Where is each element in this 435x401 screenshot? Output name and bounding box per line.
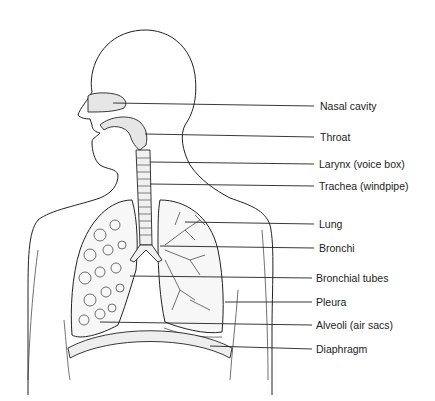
label-alveoli: Alveoli (air sacs): [316, 319, 393, 331]
trachea-shape: [136, 150, 152, 245]
label-throat: Throat: [320, 131, 350, 143]
right-lung: [158, 200, 223, 333]
label-bronchial-tubes: Bronchial tubes: [316, 272, 388, 284]
label-nasal-cavity: Nasal cavity: [320, 100, 377, 112]
right-arm-line: [262, 230, 268, 380]
label-lung: Lung: [319, 218, 342, 230]
anatomy-illustration: [0, 0, 435, 401]
label-trachea: Trachea (windpipe): [319, 180, 409, 192]
respiratory-system-diagram: Nasal cavity Throat Larynx (voice box) T…: [0, 0, 435, 401]
right-body-side: [230, 290, 238, 380]
label-larynx: Larynx (voice box): [319, 158, 405, 170]
throat-passage: [100, 117, 147, 150]
label-bronchi: Bronchi: [319, 242, 355, 254]
left-arm-line: [28, 250, 38, 380]
label-pleura: Pleura: [316, 296, 346, 308]
label-diaphragm: Diaphragm: [316, 343, 367, 355]
nasal-cavity-shape: [88, 93, 126, 112]
